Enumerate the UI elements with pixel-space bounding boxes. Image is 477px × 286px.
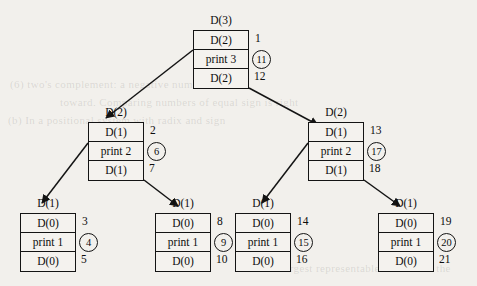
- frame-row-print: print 1: [21, 233, 75, 252]
- frame-row-call-before: D(1): [309, 123, 363, 142]
- frame-row-print: print 3: [194, 50, 248, 69]
- step-number-root-1: 11: [252, 50, 271, 69]
- frame-mid-right: D(1) print 2 D(1): [308, 122, 364, 181]
- step-number-leaf-2-2: 10: [216, 253, 228, 265]
- frame-row-call-after: D(0): [379, 252, 433, 271]
- step-number-leaf-2-1: 9: [214, 233, 233, 252]
- edge-mid-left-to-leaf-1: [42, 143, 88, 203]
- node-caption-leaf-2: D(1): [155, 197, 211, 209]
- frame-row-print: print 1: [156, 233, 210, 252]
- node-caption-root: D(3): [193, 14, 249, 26]
- step-number-leaf-1-1: 4: [79, 233, 98, 252]
- step-number-mid-left-2: 7: [149, 162, 155, 174]
- frame-row-call-after: D(0): [236, 252, 290, 271]
- step-number-root-0: 1: [255, 32, 261, 44]
- step-number-root-2: 12: [254, 70, 266, 82]
- step-number-mid-left-1: 6: [147, 142, 166, 161]
- frame-leaf-2: D(0) print 1 D(0): [155, 213, 211, 272]
- edge-mid-right-to-leaf-3: [262, 143, 308, 203]
- frame-row-call-after: D(1): [89, 161, 143, 180]
- step-number-mid-right-1: 17: [367, 142, 386, 161]
- frame-row-call-before: D(0): [21, 214, 75, 233]
- frame-root: D(2) print 3 D(2): [193, 30, 249, 89]
- node-caption-mid-left: D(2): [88, 106, 144, 118]
- frame-row-print: print 1: [236, 233, 290, 252]
- step-number-leaf-4-0: 19: [440, 215, 452, 227]
- step-number-leaf-3-2: 16: [296, 253, 308, 265]
- node-caption-mid-right: D(2): [308, 106, 364, 118]
- node-caption-leaf-1: D(1): [20, 197, 76, 209]
- frame-row-call-before: D(0): [236, 214, 290, 233]
- frame-leaf-3: D(0) print 1 D(0): [235, 213, 291, 272]
- frame-row-print: print 1: [379, 233, 433, 252]
- frame-row-call-before: D(2): [194, 31, 248, 50]
- step-number-leaf-3-0: 14: [297, 215, 309, 227]
- node-caption-leaf-3: D(1): [235, 197, 291, 209]
- frame-row-print: print 2: [309, 142, 363, 161]
- step-number-leaf-3-1: 15: [294, 233, 313, 252]
- frame-row-call-before: D(1): [89, 123, 143, 142]
- step-number-leaf-1-2: 5: [81, 253, 87, 265]
- frame-row-call-before: D(0): [379, 214, 433, 233]
- frame-row-call-after: D(0): [21, 252, 75, 271]
- step-number-leaf-2-0: 8: [217, 215, 223, 227]
- step-number-leaf-4-2: 21: [439, 253, 451, 265]
- node-caption-leaf-4: D(1): [378, 197, 434, 209]
- step-number-mid-right-2: 18: [369, 162, 381, 174]
- frame-row-call-after: D(1): [309, 161, 363, 180]
- frame-row-print: print 2: [89, 142, 143, 161]
- step-number-leaf-1-0: 3: [82, 215, 88, 227]
- frame-mid-left: D(1) print 2 D(1): [88, 122, 144, 181]
- frame-row-call-after: D(0): [156, 252, 210, 271]
- frame-row-call-before: D(0): [156, 214, 210, 233]
- step-number-leaf-4-1: 20: [437, 233, 456, 252]
- frame-row-call-after: D(2): [194, 69, 248, 88]
- recursion-trace-diagram: (6) two's complement: a negative number …: [0, 0, 477, 286]
- step-number-mid-left-0: 2: [150, 124, 156, 136]
- step-number-mid-right-0: 13: [370, 124, 382, 136]
- frame-leaf-1: D(0) print 1 D(0): [20, 213, 76, 272]
- frame-leaf-4: D(0) print 1 D(0): [378, 213, 434, 272]
- ghost-text-line-1: (6) two's complement: a negative number: [10, 78, 208, 90]
